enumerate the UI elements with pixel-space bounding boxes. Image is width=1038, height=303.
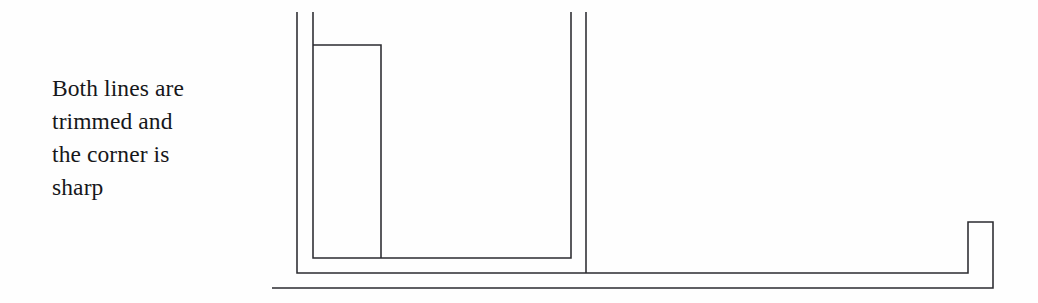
- upper-trim-stub: [313, 45, 381, 258]
- drawing-svg: [0, 0, 1038, 303]
- line-drawing: [0, 0, 1038, 303]
- outer-offset-polyline: [272, 12, 993, 288]
- figure-canvas: Both lines are trimmed and the corner is…: [0, 0, 1038, 303]
- inner-polyline: [313, 12, 571, 258]
